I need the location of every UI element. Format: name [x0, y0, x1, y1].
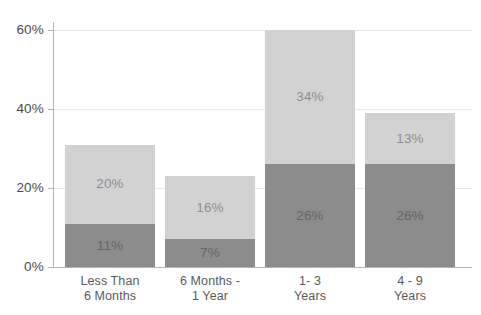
bar-segment-upper[interactable]: 20% — [65, 145, 155, 224]
bar-segment-label: 16% — [196, 201, 224, 215]
bar-group[interactable]: 34%26% — [265, 30, 355, 267]
bar-segment-lower[interactable]: 26% — [365, 164, 455, 267]
plot-area: 20%11%16%7%34%26%13%26% — [0, 0, 481, 315]
bar-segment-label: 13% — [396, 132, 424, 146]
bar-group[interactable]: 16%7% — [165, 176, 255, 267]
bar-segment-upper[interactable]: 16% — [165, 176, 255, 239]
bar-segment-label: 34% — [296, 90, 324, 104]
bar-segment-label: 20% — [96, 177, 124, 191]
category-label-line1: 1- 3 — [299, 274, 321, 288]
bar-group[interactable]: 13%26% — [365, 113, 455, 267]
stacked-bar-chart: 60%40%20%0% 20%11%16%7%34%26%13%26% Less… — [0, 0, 481, 315]
bar-segment-lower[interactable]: 7% — [165, 239, 255, 267]
bar-segment-upper[interactable]: 13% — [365, 113, 455, 164]
bar-segment-label: 11% — [97, 239, 124, 253]
bar-segment-label: 26% — [396, 209, 424, 223]
category-label-line1: 6 Months - — [180, 274, 240, 288]
category-label-line1: 4 - 9 — [397, 274, 423, 288]
bar-segment-lower[interactable]: 11% — [65, 224, 155, 267]
bar-segment-upper[interactable]: 34% — [265, 30, 355, 164]
category-label-line2: Years — [350, 289, 470, 304]
bar-segment-label: 7% — [200, 246, 220, 260]
category-label-line1: Less Than — [80, 274, 139, 288]
bar-segment-label: 26% — [296, 209, 324, 223]
bar-group[interactable]: 20%11% — [65, 145, 155, 267]
category-label: 4 - 9Years — [350, 274, 470, 303]
bar-segment-lower[interactable]: 26% — [265, 164, 355, 267]
